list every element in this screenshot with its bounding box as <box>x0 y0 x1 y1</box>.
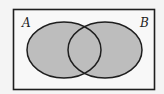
venn-diagram: A B <box>0 0 164 94</box>
shaded-union <box>27 22 142 78</box>
set-b-label: B <box>139 16 149 30</box>
set-a-label: A <box>21 16 31 30</box>
